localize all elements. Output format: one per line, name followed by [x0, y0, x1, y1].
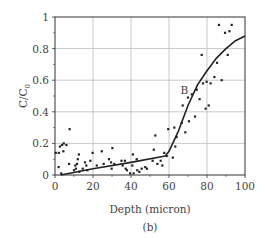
data-point — [206, 81, 208, 83]
data-point — [202, 82, 204, 84]
data-point — [198, 98, 200, 100]
data-point — [124, 160, 126, 162]
y-axis-title: C/C0 — [17, 84, 32, 108]
data-point — [218, 24, 220, 26]
data-point — [156, 163, 158, 165]
data-point — [201, 54, 203, 56]
y-tick-label: 0 — [42, 169, 49, 181]
data-point — [62, 150, 64, 152]
data-point — [126, 169, 128, 171]
data-point — [85, 164, 87, 166]
x-tick-label: 100 — [235, 180, 255, 192]
data-point — [208, 104, 210, 106]
data-point — [58, 166, 60, 168]
data-point — [131, 164, 133, 166]
data-point — [110, 161, 112, 163]
x-tick-label: 20 — [86, 180, 99, 192]
data-point — [160, 160, 162, 162]
data-point — [55, 152, 57, 154]
data-point — [65, 144, 67, 146]
data-point — [76, 163, 78, 165]
data-point — [92, 152, 94, 154]
x-tick-label: 0 — [52, 180, 59, 192]
data-point — [153, 149, 155, 151]
x-axis-title: Depth (micron) — [109, 203, 190, 215]
data-point — [111, 168, 113, 170]
data-point — [184, 131, 186, 133]
data-point — [152, 160, 154, 162]
grid-lines — [55, 17, 245, 175]
plot-frame — [55, 17, 245, 175]
curve-label-b: B — [180, 84, 188, 96]
data-point — [163, 152, 165, 154]
data-point — [221, 79, 223, 81]
data-point — [77, 158, 79, 160]
data-point — [194, 115, 196, 117]
data-point — [167, 128, 169, 130]
y-tick-label: 0.8 — [32, 43, 49, 55]
data-point — [133, 172, 135, 174]
data-point — [59, 145, 61, 147]
data-point — [141, 168, 143, 170]
y-axis-title-subscript: 0 — [24, 84, 32, 88]
data-point — [227, 54, 229, 56]
data-point — [228, 30, 230, 32]
figure-caption: (b) — [143, 221, 158, 233]
data-point — [103, 163, 105, 165]
data-point — [173, 127, 175, 129]
data-point — [101, 150, 103, 152]
y-tick-label: 0.6 — [32, 74, 49, 86]
data-point — [224, 32, 226, 34]
y-tick-label: 0.2 — [32, 137, 49, 149]
data-point — [78, 153, 80, 155]
data-point — [58, 152, 60, 154]
data-point — [188, 120, 190, 122]
chart: 02040608010000.20.40.60.81 B Depth (micr… — [0, 0, 265, 238]
data-point — [75, 168, 77, 170]
scatter-points — [55, 24, 233, 175]
data-point — [96, 164, 98, 166]
data-point — [161, 164, 163, 166]
data-point — [68, 163, 70, 165]
data-point — [138, 171, 140, 173]
data-point — [69, 128, 71, 130]
data-point — [154, 134, 156, 136]
x-tick-label: 60 — [162, 180, 175, 192]
data-point — [136, 158, 138, 160]
data-point — [174, 145, 176, 147]
data-point — [216, 62, 218, 64]
data-point — [84, 161, 86, 163]
y-tick-label: 0.4 — [32, 106, 49, 118]
data-point — [120, 160, 122, 162]
data-point — [108, 158, 110, 160]
data-point — [205, 108, 207, 110]
model-curve — [61, 36, 245, 175]
data-point — [136, 169, 138, 171]
data-point — [73, 169, 75, 171]
data-point — [82, 168, 84, 170]
x-tick-label: 80 — [200, 180, 213, 192]
data-point — [172, 157, 174, 159]
data-point — [132, 153, 134, 155]
data-point — [231, 24, 233, 26]
data-point — [111, 147, 113, 149]
data-point — [146, 168, 148, 170]
x-tick-label: 40 — [124, 180, 137, 192]
data-point — [129, 172, 131, 174]
data-point — [210, 82, 212, 84]
axis-ticks: 02040608010000.20.40.60.81 — [32, 11, 255, 192]
y-axis-title-main: C/C — [17, 88, 29, 108]
y-tick-label: 1 — [42, 11, 49, 23]
data-point — [122, 164, 124, 166]
data-point — [89, 160, 91, 162]
data-point — [187, 96, 189, 98]
data-point — [213, 76, 215, 78]
data-point — [182, 104, 184, 106]
data-point — [63, 142, 65, 144]
svg-text:C/C0: C/C0 — [17, 84, 32, 108]
